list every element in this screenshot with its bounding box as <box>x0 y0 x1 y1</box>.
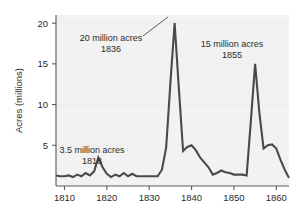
y-tick-label: 15 <box>37 58 48 69</box>
line-chart: 5101520 181018201830184018501860 20 mill… <box>0 0 297 224</box>
x-tick-label: 1860 <box>266 192 287 203</box>
y-tick-label: 5 <box>43 140 48 151</box>
y-axis-title: Acres (millions) <box>13 68 24 133</box>
annotation-label-value: 3.5 million acres <box>59 145 125 155</box>
chart-figure: 5101520 181018201830184018501860 20 mill… <box>0 0 297 224</box>
annotation-label-year: 1818 <box>82 156 102 166</box>
x-tick-label: 1830 <box>139 192 160 203</box>
annotation-label-year: 1855 <box>222 50 242 60</box>
y-axis-ticks: 5101520 <box>37 18 56 151</box>
y-tick-label: 10 <box>37 99 48 110</box>
x-tick-label: 1810 <box>54 192 75 203</box>
x-tick-label: 1820 <box>96 192 117 203</box>
x-tick-label: 1850 <box>223 192 244 203</box>
x-tick-label: 1840 <box>181 192 202 203</box>
annotation-label-year: 1836 <box>101 44 121 54</box>
annotation-label-value: 15 million acres <box>201 39 264 49</box>
y-tick-label: 20 <box>37 18 48 29</box>
x-axis-ticks: 181018201830184018501860 <box>54 186 287 203</box>
annotation-label-value: 20 million acres <box>80 33 143 43</box>
